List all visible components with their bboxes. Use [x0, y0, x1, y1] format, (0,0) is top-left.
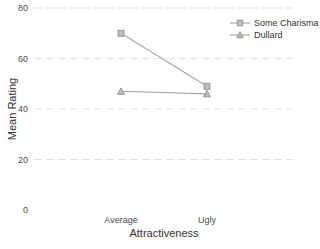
legend-label: Dullard — [254, 30, 283, 40]
y-tick-label: 80 — [18, 3, 28, 13]
x-axis-title: Attractiveness — [129, 227, 199, 239]
legend-label: Some Charisma — [254, 18, 319, 28]
square-marker-icon — [118, 30, 124, 36]
legend-item: Some Charisma — [230, 18, 319, 28]
legend: Some CharismaDullard — [230, 18, 319, 40]
y-tick-label: 60 — [18, 54, 28, 64]
series-line — [121, 91, 207, 94]
chart: 020406080 AverageUgly Mean Rating Attrac… — [0, 0, 320, 249]
legend-item: Dullard — [230, 30, 283, 40]
y-tick-label: 40 — [18, 104, 28, 114]
y-axis-title: Mean Rating — [6, 78, 18, 140]
y-tick-label: 0 — [23, 205, 28, 215]
series-line — [121, 33, 207, 86]
square-marker-icon — [204, 83, 210, 89]
series-group — [118, 30, 211, 97]
y-axis-ticks: 020406080 — [18, 3, 28, 215]
x-tick-label: Average — [104, 215, 137, 225]
series-some-charisma — [118, 30, 210, 89]
y-tick-label: 20 — [18, 155, 28, 165]
x-tick-label: Ugly — [198, 215, 217, 225]
x-axis-ticks: AverageUgly — [104, 215, 216, 225]
series-dullard — [118, 88, 211, 97]
square-marker-icon — [237, 20, 243, 26]
